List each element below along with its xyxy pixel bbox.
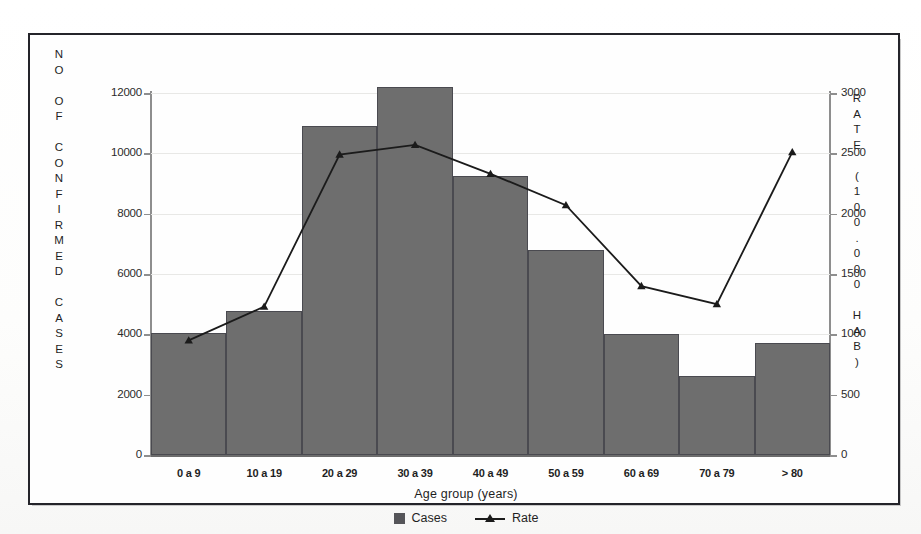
y-axis-left-tick-label: 12000 <box>78 86 142 98</box>
x-axis-label-30-a-39: 30 a 39 <box>377 467 452 479</box>
bar-cases-50-a-59 <box>528 250 603 455</box>
x-axis-label-60-a-69: 60 a 69 <box>604 467 679 479</box>
bar-cases-20-a-29 <box>302 126 377 455</box>
y-axis-right-tick-label: 2000 <box>841 207 889 219</box>
x-axis-label-40-a-49: 40 a 49 <box>453 467 528 479</box>
bar-cases-60-a-69 <box>604 334 679 455</box>
y-axis-left-tick <box>144 455 151 457</box>
y-axis-left-tick-label: 4000 <box>78 327 142 339</box>
x-axis-label-10-a-19: 10 a 19 <box>226 467 301 479</box>
y-axis-right-tick <box>830 93 837 95</box>
y-axis-left-tick-label: 6000 <box>78 267 142 279</box>
legend-label-cases: Cases <box>412 511 447 525</box>
y-axis-right-tick-label: 1000 <box>841 327 889 339</box>
legend-line-triangle-icon <box>475 513 505 524</box>
y-axis-left-tick-label: 8000 <box>78 207 142 219</box>
gridline <box>151 153 830 154</box>
y-axis-right-tick <box>830 274 837 276</box>
y-axis-right-tick <box>830 214 837 216</box>
y-axis-left-tick-label: 10000 <box>78 146 142 158</box>
bar-cases-30-a-39 <box>377 87 452 455</box>
legend-square-swatch-icon <box>394 513 405 524</box>
x-axis-label-70-a-79: 70 a 79 <box>679 467 754 479</box>
x-axis-label--80: > 80 <box>755 467 830 479</box>
x-axis-label-0-a-9: 0 a 9 <box>151 467 226 479</box>
x-axis-line <box>150 455 831 457</box>
gridline <box>151 93 830 94</box>
y-axis-left-title: N O O F C O N F I R M E D C A S E S <box>48 47 70 373</box>
y-axis-left-tick <box>144 334 151 336</box>
y-axis-left-tick <box>144 274 151 276</box>
rate-marker-10-a-19 <box>260 302 268 309</box>
y-axis-right-tick-label: 3000 <box>841 86 889 98</box>
y-axis-left-tick <box>144 395 151 397</box>
y-axis-right-tick <box>830 395 837 397</box>
y-axis-left-tick <box>144 153 151 155</box>
x-axis-title: Age group (years) <box>30 487 902 501</box>
y-axis-right-tick <box>830 455 837 457</box>
y-axis-right-tick <box>830 334 837 336</box>
bar-cases-10-a-19 <box>226 311 301 455</box>
y-axis-left-tick <box>144 93 151 95</box>
legend-label-rate: Rate <box>512 511 538 525</box>
legend-item-cases: Cases <box>394 511 447 525</box>
bar-cases--80 <box>755 343 830 455</box>
bar-cases-40-a-49 <box>453 176 528 455</box>
x-axis-label-20-a-29: 20 a 29 <box>302 467 377 479</box>
bar-cases-70-a-79 <box>679 376 754 455</box>
plot-area <box>151 93 830 455</box>
y-axis-right-tick-label: 1500 <box>841 267 889 279</box>
y-axis-left-tick-label: 0 <box>78 448 142 460</box>
y-axis-right-tick-label: 0 <box>841 448 889 460</box>
y-axis-left-tick <box>144 214 151 216</box>
y-axis-right-tick-label: 2500 <box>841 146 889 158</box>
rate-marker-70-a-79 <box>713 300 721 307</box>
y-axis-right-tick-label: 500 <box>841 388 889 400</box>
rate-marker-60-a-69 <box>637 282 645 289</box>
bar-cases-0-a-9 <box>151 333 226 455</box>
y-axis-left-tick-label: 2000 <box>78 388 142 400</box>
legend-item-rate: Rate <box>475 511 538 525</box>
y-axis-right-tick <box>830 153 837 155</box>
rate-marker-50-a-59 <box>562 201 570 208</box>
chart-figure-frame: N O O F C O N F I R M E D C A S E S R A … <box>28 33 900 505</box>
chart-legend: Cases Rate <box>30 511 902 525</box>
x-axis-label-50-a-59: 50 a 59 <box>528 467 603 479</box>
